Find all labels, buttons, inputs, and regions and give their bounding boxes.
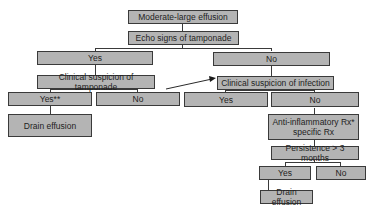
node-label: Moderate-large effusion	[138, 12, 228, 22]
node-echo-yes: Yes	[37, 51, 153, 65]
node-echo-no: No	[213, 52, 330, 66]
node-echo-signs-tamponade: Echo signs of tamponade	[128, 31, 239, 45]
node-label: No	[266, 54, 277, 64]
node-infection-yes: Yes	[184, 92, 268, 107]
node-label: Yes	[219, 95, 233, 105]
node-label: Echo signs of tamponade	[136, 33, 232, 43]
node-persistence-no: No	[316, 166, 366, 180]
node-label: No	[133, 94, 144, 104]
node-label-line2: specific Rx	[293, 127, 334, 137]
node-label: Yes	[88, 53, 102, 63]
node-tamponade-yes: Yes**	[8, 92, 92, 106]
node-label: Yes	[278, 168, 292, 178]
node-label: Clinical suspicion of infection	[221, 78, 330, 88]
node-persistence-yes: Yes	[259, 166, 311, 180]
node-label: Persistence > 3 months	[272, 143, 358, 163]
node-label-line1: Anti-inflammatory Rx*	[272, 117, 354, 127]
node-label: Drain effusion	[261, 187, 312, 207]
node-clinical-suspicion-infection: Clinical suspicion of infection	[217, 76, 334, 90]
node-label: Yes**	[40, 94, 60, 104]
node-clinical-suspicion-tamponade: Clinical suspicion of tamponade	[37, 75, 155, 89]
node-label: No	[336, 168, 347, 178]
node-label: No	[310, 95, 321, 105]
node-tamponade-no: No	[96, 92, 180, 106]
node-drain-effusion-1: Drain effusion	[8, 114, 92, 137]
node-moderate-large-effusion: Moderate-large effusion	[128, 10, 238, 24]
node-persistence: Persistence > 3 months	[271, 146, 359, 160]
node-drain-effusion-2: Drain effusion	[260, 190, 313, 204]
node-label: Clinical suspicion of tamponade	[38, 72, 154, 92]
node-infection-no: No	[271, 92, 359, 107]
node-label: Drain effusion	[24, 121, 76, 131]
node-anti-inflammatory: Anti-inflammatory Rx* specific Rx	[268, 114, 359, 140]
